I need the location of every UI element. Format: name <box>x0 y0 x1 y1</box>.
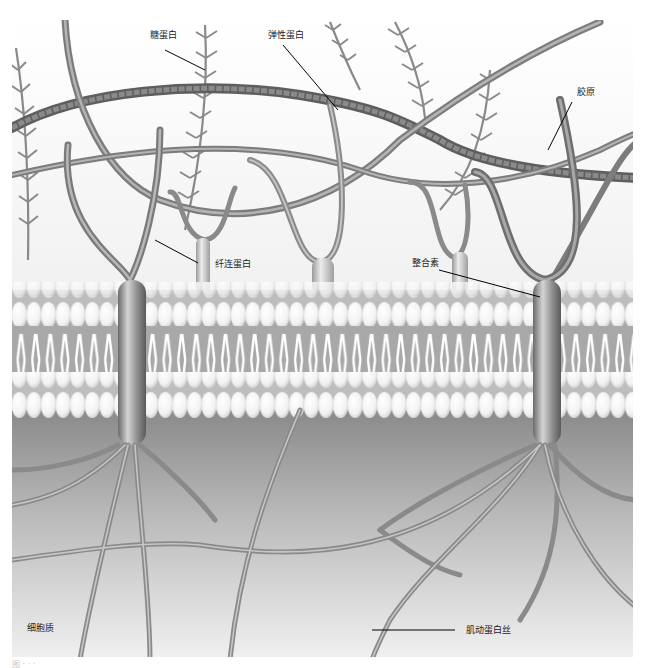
integrin-left <box>118 280 146 445</box>
label-integrin: 整合素 <box>412 258 439 269</box>
label-collagen: 胶原 <box>577 87 595 98</box>
label-cytoplasm: 细胞质 <box>27 623 54 634</box>
figure-frame <box>10 20 640 660</box>
label-fibronectin: 纤连蛋白 <box>215 259 251 270</box>
label-proteoglycan: 糖蛋白 <box>150 30 177 41</box>
label-elastin: 弹性蛋白 <box>268 30 304 41</box>
diagram-canvas <box>0 0 645 668</box>
figure-caption: 图 · · · <box>12 658 35 668</box>
label-actin-filament: 肌动蛋白丝 <box>466 625 511 636</box>
integrin-right <box>533 280 561 445</box>
ecm-diagram: 糖蛋白 弹性蛋白 胶原 纤连蛋白 整合素 细胞质 肌动蛋白丝 图 · · · <box>0 0 645 668</box>
